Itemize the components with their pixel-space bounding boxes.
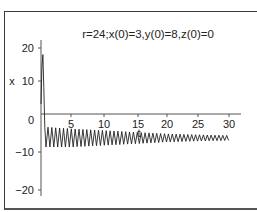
data-line	[41, 55, 229, 147]
y-tick-label: 0	[28, 114, 34, 126]
x-ticks: 5 10 15 20 25 30	[68, 114, 235, 130]
chart: r=24;x(0)=3,y(0)=8,z(0)=0 20 10 0 −10 −2…	[0, 0, 257, 212]
x-tick-label: 5	[68, 118, 74, 130]
chart-title: r=24;x(0)=3,y(0)=8,z(0)=0	[82, 28, 214, 40]
x-tick-label: 25	[192, 118, 204, 130]
x-tick-label: 10	[98, 118, 110, 130]
y-tick-label: −20	[15, 184, 34, 196]
y-tick-label: 20	[22, 42, 34, 54]
x-tick-label: 20	[161, 118, 173, 130]
x-tick-label: 30	[223, 118, 235, 130]
y-tick-label: −10	[15, 146, 34, 158]
y-tick-label: 10	[22, 75, 34, 87]
y-axis-label: x	[9, 75, 15, 87]
y-ticks: 20 10 0 −10 −20	[15, 42, 41, 196]
